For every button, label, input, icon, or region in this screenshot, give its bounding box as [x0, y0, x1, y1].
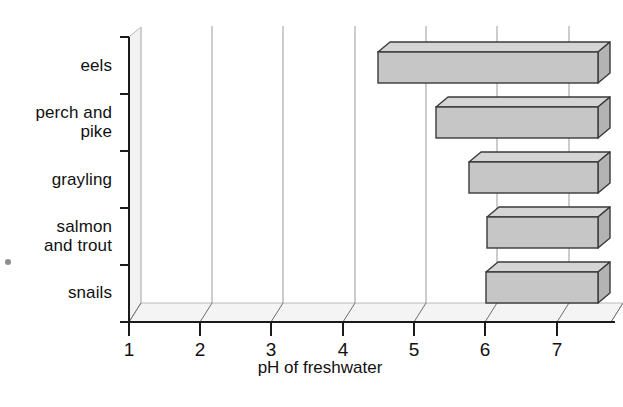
category-label-eels: eels	[0, 56, 112, 75]
bar-grayling-front-face	[469, 162, 598, 193]
bar-perch-and-pike-front-face	[436, 107, 598, 138]
scan-speck	[5, 259, 11, 265]
bar-snails-front-face	[486, 272, 598, 303]
bar-perch-and-pike[interactable]	[436, 97, 610, 138]
x-axis-title: pH of freshwater	[160, 358, 480, 378]
bar-grayling-top-face	[469, 152, 610, 162]
category-label-perch-and-pike: perch and pike	[0, 103, 112, 141]
floor-face	[129, 303, 623, 322]
bar-perch-and-pike-top-face	[436, 97, 610, 107]
left-wall-face	[129, 27, 141, 322]
category-label-grayling: grayling	[0, 170, 112, 189]
bar-snails-top-face	[486, 262, 610, 272]
bar-salmon-and-trout-front-face	[487, 217, 598, 248]
bar-eels[interactable]	[378, 42, 610, 83]
value-tick-label-7: 7	[542, 339, 572, 361]
value-axis	[122, 322, 615, 336]
category-label-salmon-and-trout: salmon and trout	[0, 217, 112, 255]
bar-eels-top-face	[378, 42, 610, 52]
bar-eels-front-face	[378, 52, 598, 83]
bar-salmon-and-trout-top-face	[487, 207, 610, 217]
category-axis	[120, 37, 129, 322]
chart-container: eels perch and pike grayling salmon and …	[0, 0, 623, 407]
bar-snails[interactable]	[486, 262, 610, 303]
bar-salmon-and-trout[interactable]	[487, 207, 610, 248]
bar-grayling[interactable]	[469, 152, 610, 193]
value-tick-label-1: 1	[114, 339, 144, 361]
category-label-snails: snails	[0, 283, 112, 302]
